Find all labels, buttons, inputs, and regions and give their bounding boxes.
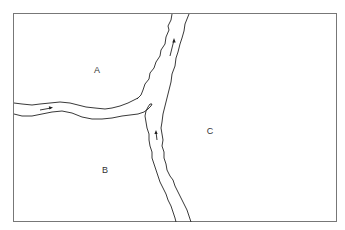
river-map-diagram	[0, 0, 345, 230]
region-label-a: A	[94, 65, 100, 75]
region-label-b: B	[102, 165, 108, 175]
region-label-c: C	[207, 126, 214, 136]
map-border	[14, 14, 337, 222]
